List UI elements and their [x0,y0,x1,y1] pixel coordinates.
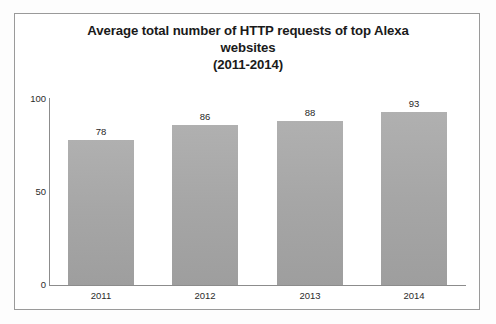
y-axis-tick-100: 100 [14,94,46,104]
bar-value-2011: 78 [56,126,146,137]
bar-value-2014: 93 [369,98,459,109]
x-axis-label-2013: 2013 [257,290,363,301]
x-axis-label-2012: 2012 [152,290,258,301]
y-axis-tick-label: 100 [18,94,46,104]
bar-2013[interactable] [277,121,343,285]
bar-value-2012: 86 [160,111,250,122]
y-axis-line [49,98,50,286]
plot-area: 100 50 0 78 86 88 93 2011 2012 2013 2014 [0,0,496,324]
y-axis-tick-0: 0 [14,280,46,290]
bar-2014[interactable] [381,112,447,285]
bar-2012[interactable] [172,125,238,285]
x-axis-line [49,285,466,286]
bar-2011[interactable] [68,140,134,285]
x-axis-label-2014: 2014 [361,290,467,301]
bar-value-2013: 88 [265,107,355,118]
chart-figure: Average total number of HTTP requests of… [0,0,496,324]
y-axis-tick-50: 50 [14,187,46,197]
x-axis-label-2011: 2011 [48,290,154,301]
y-axis-tick-label: 50 [18,187,46,197]
y-axis-tick-label: 0 [18,280,46,290]
